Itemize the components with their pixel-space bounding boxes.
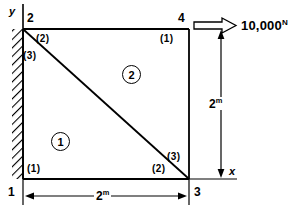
- horizontal-dimension-unit: m: [103, 188, 110, 197]
- vertical-dimension-label: 2m: [207, 97, 224, 110]
- element-number-2: 2: [122, 65, 141, 84]
- element-number-1-label: 1: [57, 136, 63, 148]
- vertical-dimension-value: 2: [209, 97, 216, 111]
- x-axis-label: x: [229, 166, 235, 177]
- element-number-1: 1: [51, 132, 70, 151]
- dim-v-arrow-bottom: [218, 169, 225, 178]
- node-label-1: 1: [8, 186, 15, 198]
- local-node-label-elem2-2: (2): [36, 34, 49, 44]
- load-magnitude: 10,000: [241, 18, 282, 33]
- horizontal-dimension-label: 2m: [94, 189, 111, 202]
- load-label: 10,000N: [241, 19, 288, 32]
- local-node-label-elem2-3: (3): [167, 152, 180, 162]
- y-axis-label: y: [9, 6, 15, 17]
- dim-h-arrow-right: [178, 193, 187, 200]
- node-label-2: 2: [27, 12, 34, 24]
- fixed-support-hatching: [12, 29, 23, 179]
- node-label-4: 4: [178, 12, 185, 24]
- node-label-3: 3: [194, 186, 201, 198]
- element-divider-diagonal: [24, 30, 188, 178]
- local-node-label-elem2-1: (1): [160, 34, 173, 44]
- local-node-label-elem1-1: (1): [27, 164, 40, 174]
- horizontal-dimension-value: 2: [96, 189, 103, 203]
- load-arrow: [194, 18, 236, 33]
- element-number-2-label: 2: [128, 69, 134, 81]
- vertical-dimension-unit: m: [216, 96, 223, 105]
- local-node-label-elem1-3: (3): [23, 51, 36, 61]
- dim-h-arrow-left: [25, 193, 34, 200]
- local-node-label-elem1-2: (2): [152, 164, 165, 174]
- load-unit: N: [282, 18, 288, 27]
- diagram-canvas: y x 2 4 1 3 (2) (3) (1) (3) (1) (2) 1 2 …: [0, 0, 303, 212]
